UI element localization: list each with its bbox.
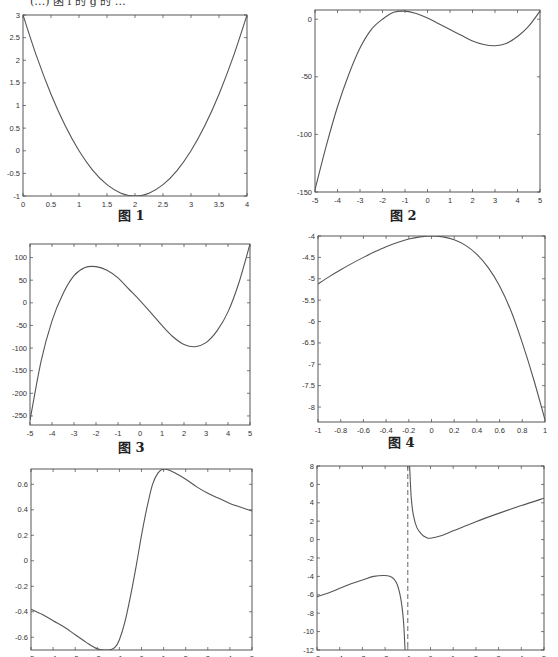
y-tick-label: 2.5 (10, 33, 20, 42)
plot-frame (315, 10, 540, 192)
y-tick-label: -50 (301, 72, 312, 81)
plot-frame (31, 469, 252, 650)
x-tick-label: 1 (160, 429, 164, 438)
x-tick-label: 5 (538, 196, 542, 205)
y-tick-label: -6.5 (302, 338, 315, 347)
y-tick-label: -4.5 (302, 253, 315, 262)
y-tick-label: 2 (16, 56, 20, 65)
y-tick-label: 0 (23, 298, 27, 307)
x-tick-label: -2 (379, 196, 386, 205)
x-tick-label: -0.6 (357, 426, 370, 435)
x-tick-label: 2 (182, 429, 186, 438)
y-tick-label: 0 (308, 15, 312, 24)
y-tick-label: -4 (308, 232, 315, 241)
y-tick-label: -1 (13, 192, 20, 201)
x-tick-label: 4 (515, 196, 519, 205)
x-tick-label: -0.8 (334, 426, 347, 435)
caption-figure-4: 图 4 (388, 432, 415, 451)
chart-figure-2: -5-4-3-2-1012345-150-100-500 (315, 10, 541, 193)
y-tick-label: 3 (16, 11, 20, 20)
x-tick-label: 0.4 (472, 426, 482, 435)
x-tick-label: 0.5 (46, 200, 56, 209)
y-tick-label: -100 (297, 130, 312, 139)
y-tick-label: -0.6 (15, 633, 28, 642)
y-tick-label: -6 (307, 590, 314, 599)
caption-figure-3: 图 3 (118, 437, 145, 456)
header-text: (…) 函 f 的 g 的 … (30, 0, 126, 8)
x-tick-label: 4 (245, 200, 249, 209)
x-tick-label: -5 (312, 196, 319, 205)
y-tick-label: 0 (24, 556, 28, 565)
y-tick-label: 6 (310, 480, 314, 489)
x-tick-label: 2 (470, 196, 474, 205)
y-tick-label: 0.6 (18, 480, 28, 489)
y-tick-label: -250 (12, 411, 27, 420)
plot-frame (317, 466, 544, 650)
y-tick-label: -8 (308, 403, 315, 412)
y-tick-label: 0.4 (18, 505, 28, 514)
x-tick-label: -3 (357, 196, 364, 205)
x-tick-label: 3.5 (214, 200, 224, 209)
data-curve (317, 575, 405, 650)
x-tick-label: -4 (49, 429, 56, 438)
caption-figure-2: 图 2 (390, 205, 417, 224)
y-tick-label: 1 (16, 101, 20, 110)
y-tick-label: -6 (308, 317, 315, 326)
plot-frame (30, 244, 250, 425)
chart-figure-4: -1-0.8-0.6-0.4-0.200.20.40.60.81-8-7.5-7… (318, 236, 546, 423)
y-tick-label: -5 (308, 274, 315, 283)
data-curve (410, 466, 544, 538)
x-tick-label: 0 (21, 200, 25, 209)
x-tick-label: 0.6 (494, 426, 504, 435)
y-tick-label: -7 (308, 360, 315, 369)
chart-figure-3: -5-4-3-2-1012345-250-200-150-100-5005010… (30, 244, 251, 426)
x-tick-label: -5 (27, 429, 34, 438)
x-tick-label: -1 (315, 426, 322, 435)
x-tick-label: 0.8 (517, 426, 527, 435)
data-curve (315, 11, 540, 190)
data-curve (318, 236, 545, 420)
y-tick-label: 0.5 (10, 124, 20, 133)
y-tick-label: 0.2 (18, 531, 28, 540)
x-tick-label: 0 (425, 196, 429, 205)
x-tick-label: 5 (248, 429, 252, 438)
x-tick-label: 0 (429, 426, 433, 435)
y-tick-label: 50 (19, 276, 27, 285)
x-tick-label: -3 (71, 429, 78, 438)
data-curve (30, 244, 250, 420)
y-tick-label: -50 (16, 321, 27, 330)
y-tick-label: 0 (310, 535, 314, 544)
x-tick-label: -4 (334, 196, 341, 205)
x-tick-label: 3 (204, 429, 208, 438)
y-tick-label: 2 (310, 517, 314, 526)
x-tick-label: 1.5 (102, 200, 112, 209)
y-tick-label: -100 (12, 344, 27, 353)
x-tick-label: 1 (77, 200, 81, 209)
y-tick-label: 8 (310, 462, 314, 471)
x-tick-label: 1 (448, 196, 452, 205)
caption-figure-1: 图 1 (118, 205, 145, 224)
x-tick-label: 3 (189, 200, 193, 209)
y-tick-label: -150 (12, 366, 27, 375)
y-tick-label: -0.4 (15, 607, 28, 616)
y-tick-label: -7.5 (302, 381, 315, 390)
y-tick-label: 0 (16, 146, 20, 155)
x-tick-label: -1 (402, 196, 409, 205)
x-tick-label: 3 (493, 196, 497, 205)
plot-frame (23, 15, 247, 196)
y-tick-label: -4 (307, 572, 314, 581)
y-tick-label: -0.5 (7, 169, 20, 178)
x-tick-label: 4 (226, 429, 230, 438)
y-tick-label: 4 (310, 498, 314, 507)
y-tick-label: -8 (307, 609, 314, 618)
x-tick-label: 1 (543, 426, 547, 435)
x-tick-label: 2.5 (158, 200, 168, 209)
y-tick-label: -2 (307, 554, 314, 563)
data-curve (31, 469, 252, 650)
y-tick-label: -200 (12, 389, 27, 398)
y-tick-label: -12 (303, 646, 314, 655)
y-tick-label: -5.5 (302, 296, 315, 305)
chart-figure-6: -5-4-3-2-1012345-12-10-8-6-4-202468 (317, 466, 545, 651)
y-tick-label: 1.5 (10, 78, 20, 87)
y-tick-label: -0.2 (15, 582, 28, 591)
